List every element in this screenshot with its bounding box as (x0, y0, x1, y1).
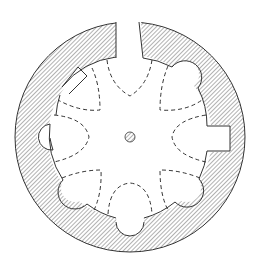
floor-plan-diagram (0, 0, 263, 275)
central-post (125, 132, 135, 142)
